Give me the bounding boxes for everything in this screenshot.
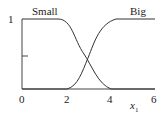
x-axis-label-sub: 1 <box>135 106 139 114</box>
y-tick-label-1: 1 <box>8 14 14 25</box>
x-tick-label-4: 4 <box>107 94 113 105</box>
label-small: Small <box>32 6 58 17</box>
series-small-curve <box>22 19 155 89</box>
x-tick-label-6: 6 <box>151 94 157 105</box>
series-big-curve <box>22 19 155 89</box>
x-tick-label-2: 2 <box>64 94 70 105</box>
x-tick-label-0: 0 <box>19 94 25 105</box>
x-axis-label: x1 <box>130 100 138 114</box>
label-big: Big <box>130 6 146 17</box>
